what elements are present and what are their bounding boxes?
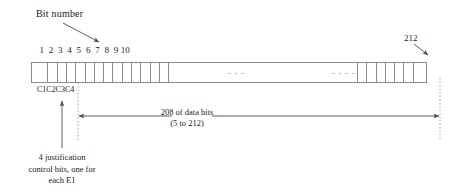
left-cell-divider <box>168 63 169 82</box>
justification-caption-line1: 4 justification <box>28 152 95 164</box>
bit-number-3: 3 <box>58 44 63 56</box>
bit-number-4: 4 <box>67 44 72 56</box>
bit-number-7: 7 <box>95 44 100 56</box>
bar-ellipsis-2: - - - - <box>332 68 356 77</box>
right-cell-divider <box>394 63 395 82</box>
bit-number-label: Bit number <box>36 8 83 19</box>
bit-number-1: 1 <box>39 44 44 56</box>
control-bit-label-C4: C4 <box>65 84 74 96</box>
bit-number-8: 8 <box>105 44 110 56</box>
bit-number-9: 9 <box>114 44 119 56</box>
justification-caption-line3: each E1 <box>28 175 95 187</box>
bit-number-2: 2 <box>49 44 54 56</box>
right-cell-divider <box>376 63 377 82</box>
left-cell-divider <box>75 63 76 82</box>
right-cell-divider <box>385 63 386 82</box>
bit-number-5: 5 <box>77 44 82 56</box>
data-bits-caption: 208 of data bits (5 to 212) <box>161 107 214 129</box>
bit-number-10: 10 <box>121 44 130 56</box>
left-cell-divider <box>140 63 141 82</box>
left-cell-divider <box>131 63 132 82</box>
right-cell-divider <box>366 63 367 82</box>
left-cell-divider <box>159 63 160 82</box>
left-cell-divider <box>47 63 48 82</box>
left-cell-divider <box>85 63 86 82</box>
left-cell-divider <box>94 63 95 82</box>
right-cell-divider <box>403 63 404 82</box>
left-cell-divider <box>122 63 123 82</box>
data-bits-caption-line2: (5 to 212) <box>161 118 214 129</box>
left-cell-divider <box>66 63 67 82</box>
right-cell-divider <box>357 63 358 82</box>
left-cell-divider <box>150 63 151 82</box>
bit-frame-diagram: Bit number 212 12345678910 - - -- - - - … <box>0 0 458 196</box>
justification-caption: 4 justification control bits, one for ea… <box>28 152 95 187</box>
justification-caption-line2: control bits, one for <box>28 164 95 176</box>
left-cell-divider <box>112 63 113 82</box>
data-bits-caption-line1: 208 of data bits <box>161 107 214 118</box>
bit-number-leader-line <box>63 23 99 42</box>
control-bit-label-C1: C1 <box>37 84 46 96</box>
left-cell-divider <box>103 63 104 82</box>
control-bit-label-C2: C2 <box>46 84 55 96</box>
end-bit-number-label: 212 <box>404 33 418 43</box>
control-bit-label-C3: C3 <box>56 84 65 96</box>
end-bit-leader-line <box>414 44 428 55</box>
frame-bar: - - -- - - - <box>31 62 427 83</box>
bar-ellipsis-1: - - - <box>228 68 245 77</box>
left-cell-divider <box>57 63 58 82</box>
bit-number-6: 6 <box>86 44 91 56</box>
right-cell-divider <box>413 63 414 82</box>
